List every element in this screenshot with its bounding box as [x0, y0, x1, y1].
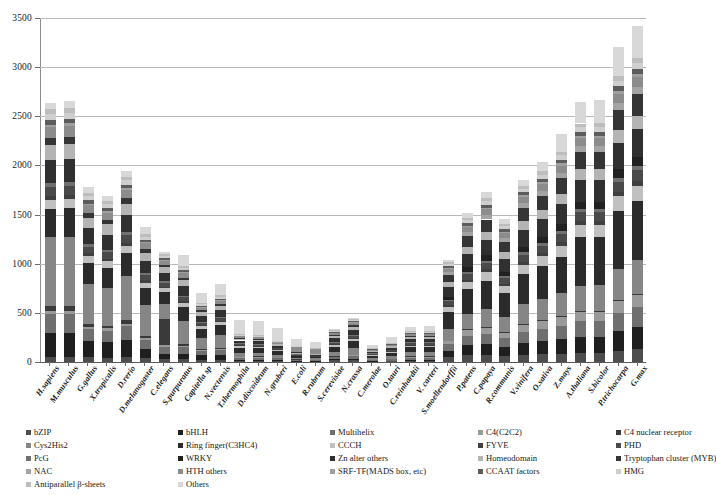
- y-axis-tick-label: 2000: [12, 160, 32, 170]
- bar-segment: [140, 253, 151, 261]
- bar-segment: [140, 336, 151, 338]
- legend-item[interactable]: CCCH: [330, 441, 361, 450]
- bar-group[interactable]: [499, 219, 510, 362]
- bar-segment: [140, 340, 151, 349]
- bar-group[interactable]: [556, 134, 567, 363]
- bar-group[interactable]: [215, 284, 226, 362]
- bar-segment: [102, 331, 113, 343]
- bar-group[interactable]: [83, 187, 94, 362]
- bar-group[interactable]: [234, 320, 245, 362]
- bar-group[interactable]: [196, 293, 207, 362]
- bar-group[interactable]: [481, 192, 492, 362]
- bar-group[interactable]: [291, 339, 302, 362]
- legend-item[interactable]: Ring finger(C3HC4): [178, 441, 257, 450]
- bar-group[interactable]: [329, 329, 340, 362]
- bar-group[interactable]: [159, 252, 170, 362]
- bar-group[interactable]: [140, 227, 151, 362]
- bar-group[interactable]: [594, 100, 605, 362]
- legend-item[interactable]: HTH others: [178, 467, 227, 476]
- bar-segment: [102, 235, 113, 250]
- bar-group[interactable]: [613, 47, 624, 362]
- bar-group[interactable]: [443, 260, 454, 362]
- legend-item[interactable]: Antiparallel β-sheets: [26, 480, 105, 489]
- bar-group[interactable]: [272, 328, 283, 362]
- bar-segment: [140, 349, 151, 359]
- bar-group[interactable]: [45, 103, 56, 362]
- legend-item[interactable]: PcG: [26, 454, 49, 463]
- bar-segment: [386, 359, 397, 361]
- bar-segment: [272, 358, 283, 360]
- bar-segment: [329, 336, 340, 338]
- bar-segment: [462, 218, 473, 220]
- bar-segment: [102, 259, 113, 262]
- bar-segment: [83, 253, 94, 256]
- bar-group[interactable]: [575, 102, 586, 362]
- legend-item[interactable]: WRKY: [178, 454, 212, 463]
- bar-segment: [159, 288, 170, 292]
- y-axis-tick-label: 2500: [12, 111, 32, 121]
- bar-group[interactable]: [462, 213, 473, 362]
- bar-segment: [556, 326, 567, 340]
- bar-segment: [329, 333, 340, 335]
- bar-segment: [196, 329, 207, 338]
- bar-group[interactable]: [405, 327, 416, 362]
- legend-item[interactable]: NAC: [26, 467, 52, 476]
- bar-segment: [253, 337, 264, 338]
- bar-segment: [45, 209, 56, 238]
- bar-segment: [178, 278, 189, 281]
- bar-segment: [405, 337, 416, 339]
- bar-segment: [462, 213, 473, 218]
- bar-segment: [594, 285, 605, 310]
- bar-segment: [462, 247, 473, 254]
- bar-segment: [499, 226, 510, 229]
- bar-segment: [102, 328, 113, 330]
- legend-item[interactable]: CCAAT factors: [478, 467, 540, 476]
- bar-group[interactable]: [178, 255, 189, 362]
- bar-group[interactable]: [121, 171, 132, 362]
- bar-segment: [102, 196, 113, 201]
- legend-swatch: [478, 456, 483, 461]
- legend-item[interactable]: C4(C2C2): [478, 428, 522, 437]
- legend-item[interactable]: HMG: [616, 467, 644, 476]
- legend-item[interactable]: Cys2His2: [26, 441, 68, 450]
- bar-segment: [518, 255, 529, 262]
- bar-group[interactable]: [386, 337, 397, 362]
- legend-item[interactable]: bZIP: [26, 428, 51, 437]
- legend-item[interactable]: Others: [178, 480, 209, 489]
- legend-item[interactable]: SRF-TF(MADS box, etc): [330, 467, 426, 476]
- bar-segment: [64, 306, 75, 311]
- bar-segment: [462, 336, 473, 345]
- bar-group[interactable]: [537, 162, 548, 363]
- legend-item[interactable]: PHD: [616, 441, 641, 450]
- bar-segment: [537, 256, 548, 266]
- bar-group[interactable]: [518, 180, 529, 362]
- bar-group[interactable]: [102, 196, 113, 362]
- bar-segment: [462, 272, 473, 274]
- legend-item[interactable]: FYVE: [478, 441, 508, 450]
- bar-segment: [102, 261, 113, 267]
- bar-segment: [424, 347, 435, 352]
- bar-segment: [481, 240, 492, 256]
- bar-group[interactable]: [424, 326, 435, 362]
- y-axis-tick-label: 500: [17, 308, 32, 318]
- bar-segment: [632, 327, 643, 349]
- bar-segment: [178, 266, 189, 268]
- bar-segment: [594, 311, 605, 312]
- bar-group[interactable]: [253, 321, 264, 362]
- legend-item[interactable]: bHLH: [178, 428, 208, 437]
- legend-swatch: [330, 469, 335, 474]
- legend-item[interactable]: Homeodomain: [478, 454, 537, 463]
- bar-group[interactable]: [367, 345, 378, 362]
- bar-group[interactable]: [64, 101, 75, 362]
- bar-group[interactable]: [348, 318, 359, 362]
- legend-item[interactable]: Tryptophan cluster (MYB): [616, 454, 716, 463]
- bar-group[interactable]: [632, 26, 643, 362]
- legend-item[interactable]: C4 nuclear receptor: [616, 428, 692, 437]
- bar-segment: [64, 199, 75, 208]
- legend-item[interactable]: Multihelix: [330, 428, 374, 437]
- bar-segment: [348, 338, 359, 339]
- bar-segment: [140, 338, 151, 340]
- bar-group[interactable]: [310, 342, 321, 362]
- legend-item[interactable]: Zn alter others: [330, 454, 388, 463]
- bar-segment: [310, 349, 321, 354]
